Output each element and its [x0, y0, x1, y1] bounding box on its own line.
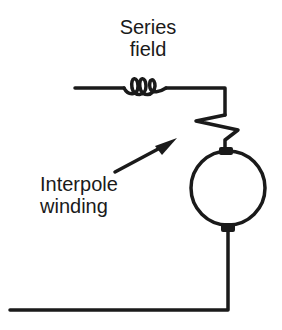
interpole-arrow-shaft — [115, 148, 160, 172]
bottom-wire — [10, 230, 228, 310]
top-wire-right — [166, 88, 225, 115]
interpole-winding-label-line1: Interpole — [40, 173, 140, 195]
series-field-coil — [124, 79, 166, 95]
interpole-winding-label-line2: winding — [40, 195, 140, 217]
series-field-label: Series field — [108, 16, 188, 60]
interpole-winding-label: Interpole winding — [40, 173, 140, 217]
bottom-brush — [221, 223, 235, 232]
arrow-head-icon — [155, 138, 177, 155]
armature-circle — [191, 151, 265, 225]
series-field-label-line2: field — [108, 38, 188, 60]
top-brush — [219, 147, 233, 155]
series-field-label-line1: Series — [108, 16, 188, 38]
interpole-winding-zigzag — [196, 115, 238, 148]
